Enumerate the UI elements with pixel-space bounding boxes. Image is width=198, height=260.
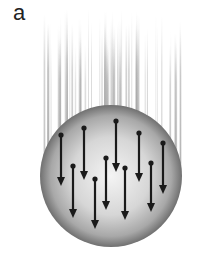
streak — [180, 32, 181, 176]
sphere-arrow-diagram — [0, 0, 198, 260]
